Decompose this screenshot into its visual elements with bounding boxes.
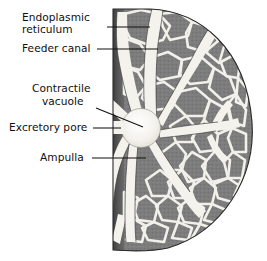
label-excretory-pore: Excretory pore bbox=[9, 121, 87, 133]
label-ampulla: Ampulla bbox=[40, 151, 84, 163]
contractile-vacuole-diagram: Endoplasmic reticulum Feeder canal Contr… bbox=[0, 0, 267, 261]
label-endoplasmic-reticulum-line2: reticulum bbox=[22, 23, 73, 35]
label-contractile-vacuole-line1: Contractile bbox=[32, 82, 91, 94]
label-endoplasmic-reticulum-line1: Endoplasmic bbox=[22, 11, 90, 23]
label-texts: Endoplasmic reticulum Feeder canal Contr… bbox=[9, 11, 91, 163]
label-feeder-canal: Feeder canal bbox=[22, 42, 91, 54]
label-contractile-vacuole-line2: vacuole bbox=[42, 95, 84, 107]
cell-body bbox=[102, 4, 260, 256]
diagram-svg: Endoplasmic reticulum Feeder canal Contr… bbox=[0, 0, 267, 261]
